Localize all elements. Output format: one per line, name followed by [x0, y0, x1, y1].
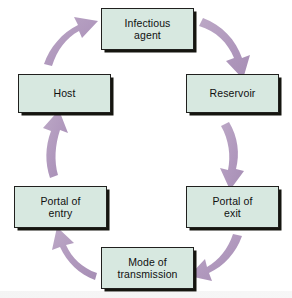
arrow-mode-to-portal-entry	[52, 227, 97, 280]
node-infectious-agent-label: Infectious agent	[122, 17, 174, 42]
node-reservoir: Reservoir	[186, 74, 279, 113]
node-infectious-agent: Infectious agent	[101, 8, 194, 50]
arrow-reservoir-to-portal-exit	[220, 122, 244, 190]
node-host: Host	[18, 74, 111, 113]
node-mode-of-transmission-label: Mode of transmission	[114, 256, 180, 281]
node-portal-of-exit-label: Portal of exit	[209, 195, 255, 220]
node-reservoir-label: Reservoir	[207, 87, 259, 100]
node-portal-of-entry-label: Portal of entry	[37, 195, 83, 220]
node-host-label: Host	[51, 87, 79, 100]
arrow-portal-exit-to-mode	[189, 234, 242, 281]
chain-of-infection-diagram: Infectious agent Reservoir Portal of exi…	[0, 0, 292, 298]
node-portal-of-exit: Portal of exit	[186, 186, 279, 228]
arrow-host-to-agent	[44, 17, 98, 66]
arrow-portal-entry-to-host	[43, 110, 68, 178]
page-scan-artifact	[0, 291, 292, 298]
arrow-agent-to-reservoir	[199, 18, 250, 79]
node-portal-of-entry: Portal of entry	[14, 186, 107, 228]
node-mode-of-transmission: Mode of transmission	[101, 247, 194, 289]
